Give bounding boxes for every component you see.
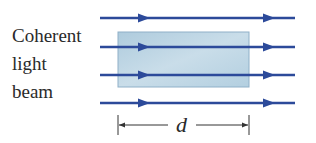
arrowhead-icon — [138, 99, 150, 108]
beam-label-line-2: light — [12, 50, 82, 78]
arrowhead-icon — [263, 71, 275, 80]
dimension-label: d — [176, 112, 187, 138]
beam-label-line-1: Coherent — [12, 22, 82, 50]
dimension-arrow-right-icon — [242, 123, 248, 128]
arrowhead-icon — [263, 99, 275, 108]
transparent-slab — [118, 32, 249, 87]
arrowhead-icon — [138, 14, 150, 23]
dimension-arrow-left-icon — [119, 123, 125, 128]
beam-label: Coherent light beam — [12, 22, 82, 106]
beam-label-line-3: beam — [12, 78, 82, 106]
arrowhead-icon — [263, 43, 275, 52]
arrowhead-icon — [263, 14, 275, 23]
beam-ray-4 — [100, 99, 295, 108]
beam-ray-1 — [100, 14, 295, 23]
